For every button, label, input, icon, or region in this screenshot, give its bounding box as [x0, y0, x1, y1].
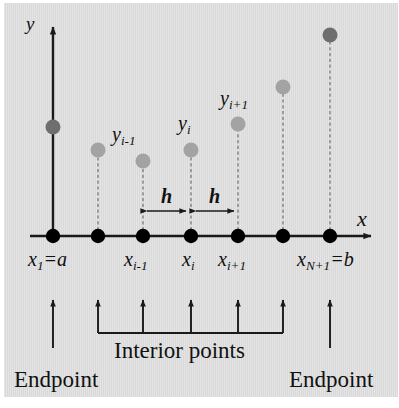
- figure-root: y x h h yi-1 yi yi+1 x1=a xi-1 xi xi+1 x…: [0, 0, 399, 408]
- spacing-label-right: h: [209, 186, 220, 206]
- y-point-label-i: yi: [178, 113, 191, 136]
- stem-group: [53, 35, 330, 236]
- x-tick-label-n-plus-1: xN+1=b: [297, 249, 354, 272]
- spacing-label-left: h: [161, 186, 172, 206]
- x-tick-label-1-suffix: =a: [43, 248, 67, 270]
- grid-node-3: [136, 229, 150, 243]
- data-dot-2: [91, 143, 106, 158]
- y-point-label-i-plus-1: yi+1: [220, 88, 248, 111]
- x-tick-label-n-plus-1-suffix: =b: [330, 248, 354, 270]
- y-point-label-i-sub: i: [187, 122, 191, 137]
- x-tick-label-i-sub: i: [191, 258, 195, 273]
- x-tick-label-n-plus-1-base: x: [297, 248, 306, 270]
- data-dot-6: [276, 80, 291, 95]
- grid-node-7: [323, 229, 337, 243]
- grid-node-5: [231, 229, 245, 243]
- x-tick-label-i-plus-1: xi+1: [218, 249, 246, 272]
- data-dot-1: [46, 120, 61, 135]
- y-point-label-i-minus-1-sub: i-1: [121, 133, 136, 148]
- endpoint-label-left: Endpoint: [14, 368, 98, 391]
- data-dot-5: [231, 117, 246, 132]
- data-dot-3: [136, 154, 151, 169]
- interior-points-label: Interior points: [114, 339, 245, 362]
- x-tick-label-i-minus-1-base: x: [124, 248, 133, 270]
- endpoint-label-right: Endpoint: [289, 368, 373, 391]
- x-tick-label-i-base: x: [182, 248, 191, 270]
- x-tick-label-i-plus-1-sub: i+1: [227, 258, 246, 273]
- x-tick-label-i: xi: [182, 249, 195, 272]
- y-point-label-i-minus-1-base: y: [112, 123, 121, 145]
- grid-node-6: [276, 229, 290, 243]
- x-tick-label-i-plus-1-base: x: [218, 248, 227, 270]
- grid-node-1: [46, 229, 60, 243]
- y-point-label-i-base: y: [178, 112, 187, 134]
- data-dot-group: [46, 28, 338, 169]
- grid-node-2: [91, 229, 105, 243]
- x-tick-label-i-minus-1: xi-1: [124, 249, 148, 272]
- y-point-label-i-plus-1-sub: i+1: [229, 97, 248, 112]
- x-tick-label-1: x1=a: [28, 249, 67, 272]
- x-tick-label-1-base: x: [28, 248, 37, 270]
- y-axis-label: y: [26, 14, 34, 33]
- x-tick-label-n-plus-1-sub: N+1: [306, 258, 330, 273]
- data-dot-7: [323, 28, 338, 43]
- y-point-label-i-plus-1-base: y: [220, 87, 229, 109]
- grid-node-4: [184, 229, 198, 243]
- x-tick-label-i-minus-1-sub: i-1: [133, 258, 148, 273]
- data-dot-4: [184, 143, 199, 158]
- x-axis-label: x: [357, 208, 367, 230]
- y-point-label-i-minus-1: yi-1: [112, 124, 136, 147]
